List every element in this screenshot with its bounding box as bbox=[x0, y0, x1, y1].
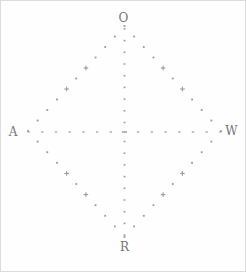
diamond-plus bbox=[182, 171, 183, 176]
v-axis-tick bbox=[124, 176, 126, 178]
h-axis-tick bbox=[219, 131, 221, 132]
v-axis-tick bbox=[124, 110, 126, 112]
v-axis-tick bbox=[124, 141, 126, 143]
diamond-dot bbox=[172, 78, 174, 80]
diamond-dot bbox=[133, 226, 135, 228]
diamond-dot bbox=[75, 183, 77, 185]
diamond-plus bbox=[66, 87, 67, 92]
diamond-dot bbox=[75, 78, 77, 80]
diamond-dot bbox=[153, 57, 155, 59]
diamond-dot bbox=[56, 162, 58, 164]
vertex-label-right: W bbox=[225, 125, 237, 137]
diamond-plus bbox=[66, 171, 67, 176]
diamond-dot bbox=[104, 46, 106, 48]
v-axis-tick bbox=[124, 223, 126, 225]
v-axis-tick bbox=[124, 98, 126, 100]
h-axis-tick bbox=[69, 131, 71, 132]
diamond-dot bbox=[153, 204, 155, 206]
h-axis-tick bbox=[137, 131, 139, 132]
diamond-dot bbox=[191, 99, 193, 101]
diamond-dot bbox=[201, 109, 203, 111]
diamond-dot bbox=[124, 25, 126, 27]
diamond-dot bbox=[56, 99, 58, 101]
vertex-label-left: A bbox=[9, 126, 18, 138]
diamond-dot bbox=[104, 215, 106, 217]
h-axis-tick bbox=[206, 131, 208, 132]
center-dash bbox=[122, 131, 127, 132]
diamond-dot bbox=[46, 151, 48, 153]
diamond-dot bbox=[172, 183, 174, 185]
diamond-dot bbox=[210, 120, 212, 122]
diamond-plus bbox=[85, 66, 86, 71]
v-axis-tick bbox=[124, 75, 126, 77]
diamond-dot bbox=[143, 46, 145, 48]
diamond-dot bbox=[201, 151, 203, 153]
h-axis-tick bbox=[41, 131, 43, 132]
v-axis-tick bbox=[124, 199, 126, 201]
plot-svg bbox=[1, 1, 246, 272]
diamond-dot bbox=[143, 215, 145, 217]
diamond-dot bbox=[95, 204, 97, 206]
v-axis-tick bbox=[124, 40, 126, 42]
diamond-dot bbox=[37, 120, 39, 122]
h-axis-tick bbox=[110, 131, 112, 132]
v-axis-tick bbox=[124, 122, 126, 124]
h-axis-tick bbox=[96, 131, 98, 132]
v-axis-tick bbox=[124, 152, 126, 154]
diamond-dot bbox=[46, 109, 48, 111]
v-axis-tick bbox=[124, 211, 126, 213]
diamond-dot bbox=[114, 36, 116, 38]
diamond-dot bbox=[210, 141, 212, 143]
diamond-dot bbox=[95, 57, 97, 59]
h-axis-tick bbox=[151, 131, 153, 132]
vertex-label-bottom: R bbox=[120, 241, 129, 253]
v-axis-tick bbox=[124, 164, 126, 166]
h-axis-tick bbox=[178, 131, 180, 132]
diamond-dot bbox=[37, 141, 39, 143]
v-axis-tick bbox=[124, 28, 126, 30]
vertex-label-top: O bbox=[119, 12, 129, 24]
v-axis-tick bbox=[124, 234, 126, 236]
v-axis-tick bbox=[124, 188, 126, 190]
diamond-dot bbox=[191, 162, 193, 164]
diamond-dot bbox=[124, 236, 126, 238]
diamond-dot bbox=[114, 226, 116, 228]
h-axis-tick bbox=[164, 131, 166, 132]
diamond-dot bbox=[133, 36, 135, 38]
v-axis-tick bbox=[124, 52, 126, 54]
plot-canvas: O A W R bbox=[0, 0, 246, 272]
h-axis-tick bbox=[27, 131, 29, 132]
diamond-plus bbox=[163, 192, 164, 197]
diamond-plus bbox=[85, 192, 86, 197]
h-axis-tick bbox=[82, 131, 84, 132]
diamond-plus bbox=[182, 87, 183, 92]
v-axis-tick bbox=[124, 87, 126, 89]
diamond-plus bbox=[163, 66, 164, 71]
h-axis-tick bbox=[192, 131, 194, 132]
v-axis-tick bbox=[124, 63, 126, 65]
h-axis-tick bbox=[55, 131, 57, 132]
